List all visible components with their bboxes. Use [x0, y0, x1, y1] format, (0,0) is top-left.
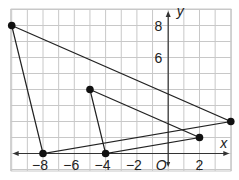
origin-label: O: [156, 157, 167, 173]
vertex-point: [227, 118, 235, 126]
x-axis-left-arrow-icon: [13, 151, 19, 156]
y-axis-down-arrow-icon: [166, 162, 170, 167]
x-tick-label: −6: [63, 157, 79, 173]
y-tick-label: 8: [154, 18, 162, 34]
vertex-point: [8, 22, 16, 30]
x-tick-label: −4: [95, 157, 111, 173]
y-axis-label: y: [176, 3, 185, 19]
x-tick-label: 2: [196, 157, 204, 173]
x-tick-label: −8: [32, 157, 48, 173]
vertex-point: [39, 150, 47, 158]
x-axis-right-arrow-icon: [223, 151, 229, 156]
x-tick-label: −2: [126, 157, 142, 173]
grid: [11, 9, 232, 171]
coordinate-plane: −8−6−4−2268Oxy: [0, 0, 239, 180]
x-axis-label: x: [219, 135, 228, 151]
vertex-point: [102, 150, 110, 158]
vertex-point: [196, 134, 204, 142]
vertex-point: [86, 86, 94, 94]
y-axis-up-arrow-icon: [166, 11, 171, 17]
y-tick-label: 6: [154, 50, 162, 66]
